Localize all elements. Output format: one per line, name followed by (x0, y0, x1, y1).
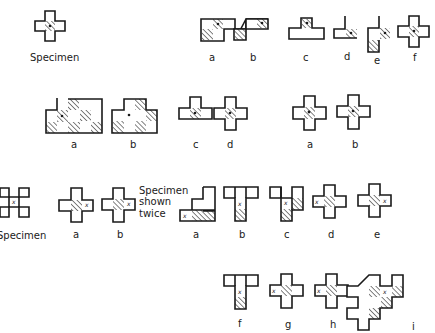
figure-4f: x (224, 275, 258, 309)
figure-1d (334, 16, 357, 38)
figure-2a (46, 98, 102, 133)
label-2a: a (71, 139, 77, 150)
label-1c: c (303, 52, 309, 63)
svg-text:x: x (84, 201, 89, 208)
note-line-1: Specimen (139, 185, 188, 196)
label-4h: h (330, 319, 336, 330)
label-4f: f (238, 318, 242, 329)
specimen-cross-row1 (35, 11, 65, 41)
specimen-four-squares: x (0, 188, 29, 217)
figure-2e (293, 96, 326, 130)
figure-3e: x (270, 187, 303, 221)
figure-2c (179, 97, 212, 119)
figure-3d: x (224, 187, 258, 221)
label-1b: b (250, 52, 256, 63)
svg-text:x: x (382, 197, 387, 204)
note-line-2: shown (139, 196, 171, 207)
specimen-label-row3: Specimen (0, 230, 46, 241)
label-2e: a (307, 139, 313, 150)
label-3f: d (328, 229, 334, 240)
label-2c: c (193, 139, 199, 150)
label-4i: i (412, 321, 415, 332)
label-2b: b (130, 139, 136, 150)
svg-text:x: x (314, 198, 319, 205)
svg-text:x: x (316, 287, 321, 294)
figure-2f (337, 95, 370, 129)
figure-2b (112, 99, 157, 133)
svg-text:x: x (271, 287, 276, 294)
figure-1b (234, 19, 268, 40)
figure-4g: x (270, 274, 303, 308)
label-3d: b (239, 229, 245, 240)
figure-1e (368, 16, 390, 52)
svg-text:x: x (382, 288, 387, 295)
label-2d: d (227, 139, 233, 150)
figure-1f (398, 16, 429, 47)
label-2f: b (352, 139, 358, 150)
label-1e: e (374, 55, 380, 66)
svg-text:x: x (237, 200, 242, 207)
specimen-label-row1: Specimen (30, 52, 79, 63)
figure-3g: x (358, 184, 391, 217)
figure-4h: x (315, 274, 348, 308)
svg-text:x: x (11, 198, 16, 205)
figure-3a: x (59, 188, 93, 222)
figure-1a (201, 19, 235, 41)
figure-1c (289, 18, 324, 39)
label-3a: a (73, 229, 79, 240)
svg-text:x: x (283, 199, 288, 206)
label-1f: f (413, 52, 417, 63)
label-3g: e (374, 229, 380, 240)
diagram-figure: Specimen a b c d e (0, 0, 435, 333)
figure-2d (214, 97, 247, 130)
label-3c: a (193, 229, 199, 240)
note-line-3: twice (139, 208, 166, 219)
label-3e: c (284, 229, 290, 240)
label-1a: a (209, 52, 215, 63)
svg-text:x: x (182, 212, 187, 219)
label-1d: d (344, 51, 350, 62)
figure-3b: x (102, 188, 135, 222)
svg-text:x: x (237, 288, 242, 295)
svg-text:x: x (126, 200, 131, 207)
figure-4i: x (347, 275, 403, 330)
figure-3f: x (313, 185, 346, 218)
label-4g: g (285, 319, 291, 330)
label-3b: b (117, 229, 123, 240)
